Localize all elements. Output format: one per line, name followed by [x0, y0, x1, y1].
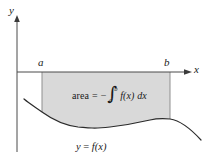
- integral-area-figure: y x a b area = − ∫ b a f(x) dx y = f(x): [0, 0, 206, 160]
- lower-bound-label-a: a: [38, 57, 44, 68]
- minus-sign: −: [101, 90, 107, 101]
- curve-equation-rhs: f(x): [92, 141, 107, 152]
- x-axis-label: x: [194, 64, 199, 75]
- area-word: area: [72, 90, 89, 101]
- differential-dx: dx: [137, 90, 146, 101]
- area-formula: area = − ∫ b a f(x) dx: [72, 87, 147, 103]
- integral-upper-limit: b: [114, 85, 117, 92]
- curve-equation-equals: =: [83, 141, 89, 152]
- y-axis-arrowhead: [14, 15, 20, 22]
- integrand-expression: f(x): [120, 90, 134, 101]
- x-axis-arrowhead: [184, 69, 192, 75]
- curve-equation-label: y = f(x): [76, 141, 106, 152]
- upper-bound-label-b: b: [164, 57, 170, 68]
- integral-symbol-group: ∫ b a: [107, 87, 118, 103]
- curve-equation-lhs: y: [76, 141, 81, 152]
- figure-canvas: [0, 0, 206, 160]
- integral-lower-limit: a: [109, 96, 112, 103]
- y-axis-label: y: [9, 5, 14, 16]
- equals-sign: =: [92, 90, 98, 101]
